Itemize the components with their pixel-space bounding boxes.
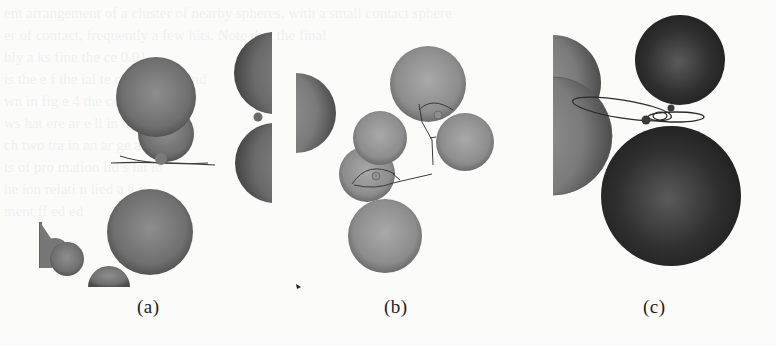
caption-c: (c) [643, 296, 666, 318]
figure [0, 0, 776, 346]
sphere [107, 189, 193, 275]
sphere [390, 46, 466, 122]
panel-c [494, 15, 741, 266]
contact-sphere [668, 105, 675, 112]
contact-sphere [155, 153, 167, 165]
marker [296, 284, 301, 289]
sphere [348, 199, 422, 273]
sphere [494, 77, 612, 195]
sphere [50, 242, 84, 276]
caption-a: (a) [137, 296, 160, 318]
sphere [436, 113, 494, 171]
contact-sphere [372, 172, 380, 180]
sphere [601, 126, 741, 266]
sphere [353, 111, 407, 165]
contact-sphere [254, 113, 263, 122]
sphere [116, 57, 196, 137]
panel-a [39, 32, 316, 287]
sphere [88, 266, 130, 287]
contact-ellipse [648, 112, 704, 122]
caption-b: (b) [384, 296, 408, 318]
panel-b [256, 46, 494, 289]
contact-sphere [642, 116, 651, 125]
contact-sphere [434, 111, 442, 119]
sphere [635, 15, 725, 105]
